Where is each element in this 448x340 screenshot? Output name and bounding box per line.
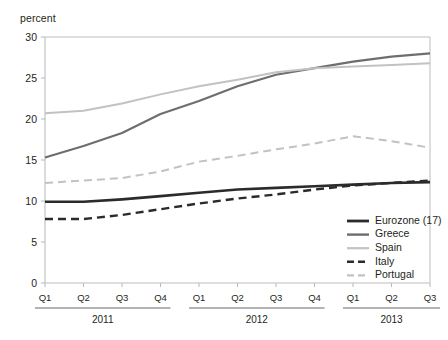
- line-chart-svg: 051015202530 Q1Q2Q3Q4Q1Q2Q3Q4Q1Q2Q320112…: [0, 0, 448, 340]
- legend-label: Portugal: [375, 268, 414, 280]
- x-axis-quarter-label: Q1: [193, 292, 206, 303]
- y-axis-tick-label: 10: [25, 195, 37, 207]
- y-axis-tick-label: 25: [25, 72, 37, 84]
- chart-plot-area: 051015202530 Q1Q2Q3Q4Q1Q2Q3Q4Q1Q2Q320112…: [0, 0, 448, 340]
- y-axis-tick-label: 0: [31, 277, 37, 289]
- series-layer: [45, 53, 430, 219]
- x-axis-layer: Q1Q2Q3Q4Q1Q2Q3Q4Q1Q2Q3201120122013: [35, 283, 440, 325]
- x-axis-year-label: 2011: [92, 314, 114, 325]
- y-axis-tick-label: 20: [25, 113, 37, 125]
- x-axis-quarter-label: Q2: [77, 292, 90, 303]
- x-axis-quarter-label: Q1: [39, 292, 52, 303]
- x-axis-quarter-label: Q3: [424, 292, 437, 303]
- x-axis-quarter-label: Q2: [385, 292, 398, 303]
- y-axis-tick-label: 5: [31, 236, 37, 248]
- legend-label: Spain: [375, 241, 402, 253]
- series-line: [45, 136, 430, 183]
- series-line: [45, 53, 430, 157]
- axis-layer: 051015202530: [25, 31, 430, 289]
- x-axis-quarter-label: Q3: [116, 292, 129, 303]
- x-axis-quarter-label: Q3: [270, 292, 283, 303]
- x-axis-quarter-label: Q4: [308, 292, 321, 303]
- x-axis-year-label: 2013: [380, 314, 403, 325]
- x-axis-quarter-label: Q1: [347, 292, 360, 303]
- legend-label: Italy: [375, 255, 395, 267]
- series-line: [45, 63, 430, 113]
- legend-label: Eurozone (17): [375, 214, 442, 226]
- legend-label: Greece: [375, 227, 410, 239]
- y-axis-tick-label: 15: [25, 154, 37, 166]
- y-axis-tick-label: 30: [25, 31, 37, 43]
- chart-legend: Eurozone (17)GreeceSpainItalyPortugal: [347, 214, 442, 280]
- figure-container: percent 051015202530 Q1Q2Q3Q4Q1Q2Q3Q4Q1Q…: [0, 0, 448, 340]
- x-axis-quarter-label: Q4: [154, 292, 167, 303]
- x-axis-quarter-label: Q2: [231, 292, 244, 303]
- x-axis-year-label: 2012: [246, 314, 269, 325]
